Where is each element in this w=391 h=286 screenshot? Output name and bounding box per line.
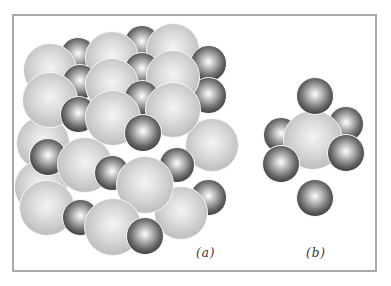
caption-a: (a) [196,246,216,260]
small-ion [126,217,164,255]
small-ion [327,134,365,172]
small-ion [262,145,300,183]
small-ion [296,179,334,217]
small-ion [296,77,334,115]
caption-b: (b) [306,246,326,260]
small-ion [124,114,162,152]
